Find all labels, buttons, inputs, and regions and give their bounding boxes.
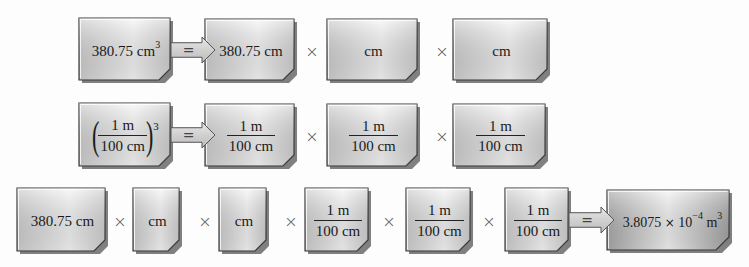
times-symbol: × (382, 212, 395, 231)
row1-start-box: 380.75 cm3 (79, 18, 173, 83)
times-symbol: × (284, 212, 297, 231)
start-volume-exponent: 3 (155, 39, 160, 50)
row3-term-1: 380.75 cm (31, 213, 94, 230)
row2-factor-box: ( 1 m 100 cm ) 3 (79, 103, 173, 169)
row1-expanded-box-1: 380.75 cm (205, 19, 297, 83)
row1-expanded-term-2: cm (364, 43, 382, 60)
row3-fraction-1: 1 m 100 cm (314, 202, 363, 240)
row3-term-3: cm (235, 213, 253, 230)
right-paren: ) (146, 116, 153, 156)
result-box: 3.8075 × 10−4 m3 (607, 190, 732, 253)
row3-term-2: cm (148, 213, 166, 230)
row2-fraction-1: 1 m 100 cm (227, 118, 276, 156)
result-exponent: −4 (692, 210, 703, 221)
fraction-numerator: 1 m (360, 118, 387, 135)
left-paren: ( (92, 116, 99, 156)
row3-equals-arrow: = (569, 207, 614, 233)
conversion-fraction: 1 m 100 cm (514, 202, 563, 240)
fraction-denominator: 100 cm (514, 220, 563, 240)
result-mantissa: 3.8075 (623, 215, 662, 230)
equals-sign: = (183, 127, 195, 143)
row3-term-box-2: cm (133, 188, 182, 254)
conversion-fraction: 1 m 100 cm (98, 117, 147, 155)
row3-term-box-1: 380.75 cm (17, 188, 108, 254)
times-symbol: × (305, 42, 318, 61)
result-unit: m (706, 215, 717, 230)
row1-start-value: 380.75 cm3 (92, 41, 160, 60)
fraction-denominator: 100 cm (415, 220, 464, 240)
fraction-numerator: 1 m (525, 202, 552, 219)
row1-expanded-box-3: cm (453, 19, 550, 83)
fraction-denominator: 100 cm (349, 135, 398, 155)
fraction-denominator: 100 cm (314, 220, 363, 240)
fraction-denominator: 100 cm (227, 135, 276, 155)
times-symbol: × (113, 212, 126, 231)
fraction-denominator: 100 cm (476, 135, 525, 155)
row2-expanded-box-1: 1 m 100 cm (205, 104, 297, 169)
result-times: × (665, 216, 675, 230)
row2-cubed-factor: ( 1 m 100 cm ) 3 (93, 116, 159, 156)
conversion-fraction: 1 m 100 cm (476, 118, 525, 156)
times-symbol: × (305, 127, 318, 146)
row1-expanded-box-2: cm (327, 19, 420, 83)
fraction-denominator: 100 cm (98, 135, 147, 155)
equals-sign: = (581, 212, 593, 228)
fraction-numerator: 1 m (238, 118, 265, 135)
row1-expanded-term-3: cm (492, 43, 510, 60)
row2-fraction-3: 1 m 100 cm (476, 118, 525, 156)
row2-fraction-2: 1 m 100 cm (349, 118, 398, 156)
times-symbol: × (198, 212, 211, 231)
equals-sign: = (183, 42, 195, 58)
row3-fraction-2: 1 m 100 cm (415, 202, 464, 240)
times-symbol: × (435, 42, 448, 61)
row3-fraction-3: 1 m 100 cm (514, 202, 563, 240)
fraction-numerator: 1 m (109, 117, 136, 134)
times-symbol: × (482, 212, 495, 231)
start-volume-value: 380.75 cm (92, 43, 155, 59)
fraction-numerator: 1 m (325, 202, 352, 219)
row3-term-box-3: cm (219, 188, 269, 254)
row2-equals-arrow: = (171, 122, 215, 148)
fraction-numerator: 1 m (426, 202, 453, 219)
conversion-fraction: 1 m 100 cm (227, 118, 276, 156)
result-value: 3.8075 × 10−4 m3 (623, 212, 723, 231)
times-symbol: × (435, 127, 448, 146)
row1-expanded-term-1: 380.75 cm (219, 43, 282, 60)
result-base: 10 (678, 215, 692, 230)
row2-expanded-box-3: 1 m 100 cm (453, 104, 548, 169)
factor-exponent: 3 (153, 120, 159, 132)
conversion-fraction: 1 m 100 cm (349, 118, 398, 156)
conversion-fraction: 1 m 100 cm (314, 202, 363, 240)
parenthesized-fraction: ( 1 m 100 cm ) 3 (93, 116, 159, 156)
row2-expanded-box-2: 1 m 100 cm (327, 104, 420, 169)
row1-equals-arrow: = (171, 37, 215, 63)
fraction-numerator: 1 m (487, 118, 514, 135)
row3-factor-box-1: 1 m 100 cm (305, 188, 371, 254)
result-unit-exponent: 3 (717, 210, 722, 221)
conversion-fraction: 1 m 100 cm (415, 202, 464, 240)
row3-factor-box-3: 1 m 100 cm (505, 188, 571, 254)
row3-factor-box-2: 1 m 100 cm (406, 188, 473, 254)
